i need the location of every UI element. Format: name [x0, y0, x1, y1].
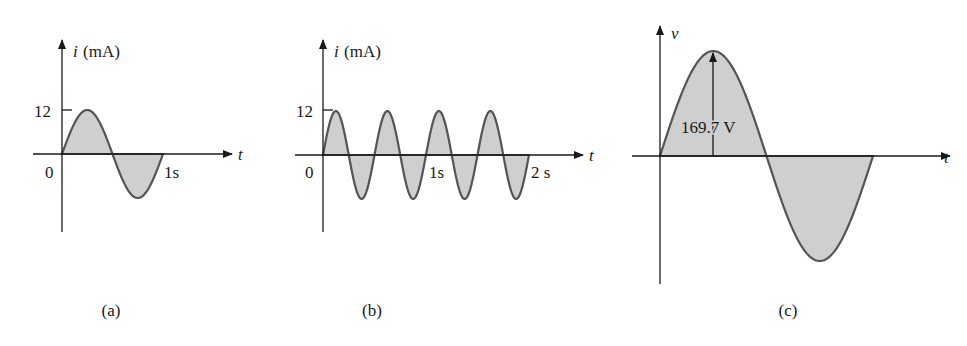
- caption-c: (c): [779, 301, 798, 320]
- panel-b: i (mA) 12 0 1s 2 s t (b): [295, 40, 595, 320]
- y-tick-label-b: 12: [296, 102, 313, 121]
- caption-a: (a): [102, 301, 121, 320]
- panel-a: i (mA) 12 0 1s t (a): [33, 40, 244, 320]
- caption-b: (b): [362, 301, 382, 320]
- y-axis-var-a: i: [73, 42, 78, 61]
- origin-label-a: 0: [45, 163, 54, 182]
- x-axis-var-a: t: [238, 145, 244, 164]
- peak-label-c: 169.7 V: [681, 118, 736, 137]
- y-axis-var-c: v: [671, 24, 679, 43]
- y-tick-label-a: 12: [34, 102, 51, 121]
- panel-c: v 169.7 V t (c): [632, 24, 950, 320]
- sine-waveform-figure: i (mA) 12 0 1s t (a) i (mA) 12 0 1s 2 s …: [0, 0, 967, 346]
- x-mid-label-b: 1s: [429, 163, 444, 182]
- x-end-label-b: 2 s: [531, 163, 550, 182]
- x-end-label-a: 1s: [164, 163, 179, 182]
- y-axis-var-b: i: [334, 42, 339, 61]
- origin-label-b: 0: [305, 163, 314, 182]
- x-axis-var-c: t: [944, 148, 950, 167]
- y-axis-unit-b: (mA): [344, 42, 381, 61]
- x-axis-var-b: t: [589, 146, 595, 165]
- y-axis-unit-a: (mA): [83, 42, 120, 61]
